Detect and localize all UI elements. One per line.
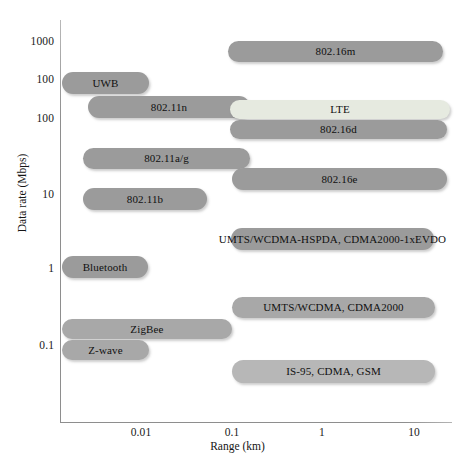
- technology-pill-label: 802.16e: [321, 174, 357, 185]
- technology-pill: 802.16d: [230, 120, 447, 139]
- technology-pill-label: 802.16m: [316, 46, 356, 57]
- wireless-technology-range-vs-datarate-chart: 10001001001010.1 0.010.1110 802.16mUWB80…: [0, 0, 475, 473]
- technology-pill: UWB: [62, 72, 149, 94]
- technology-pill-label: 802.11a/g: [144, 153, 189, 164]
- technology-pill: 802.11a/g: [83, 148, 250, 169]
- technology-pill: Z-wave: [62, 340, 149, 360]
- technology-pill-label: UMTS/WCDMA, CDMA2000: [263, 302, 404, 313]
- x-axis-tick-label: 0.01: [131, 426, 152, 438]
- technology-pill: ZigBee: [62, 319, 232, 339]
- x-axis-line: [60, 422, 452, 424]
- x-axis-title: Range (km): [0, 440, 475, 452]
- technology-pill: UMTS/WCDMA, CDMA2000: [232, 297, 435, 318]
- technology-pill-label: 802.11b: [127, 194, 163, 205]
- x-axis-tick-label: 0.1: [225, 426, 240, 438]
- technology-pill-label: Bluetooth: [83, 262, 128, 273]
- technology-pill: 802.11n: [88, 96, 250, 118]
- technology-pill: LTE: [230, 100, 450, 119]
- technology-pill-label: UMTS/WCDMA-HSPDA, CDMA2000-1xEVDO: [219, 234, 446, 245]
- technology-pill-label: 802.11n: [151, 102, 187, 113]
- technology-pill-label: UWB: [92, 78, 118, 89]
- technology-pill-label: ZigBee: [130, 324, 163, 335]
- y-axis-tick-label: 1000: [0, 35, 54, 47]
- x-axis-tick-label: 1: [319, 426, 325, 438]
- y-axis-tick-label: 0.1: [0, 339, 54, 351]
- technology-pill-label: IS-95, CDMA, GSM: [286, 366, 381, 377]
- technology-pill: UMTS/WCDMA-HSPDA, CDMA2000-1xEVDO: [231, 228, 434, 250]
- technology-pill: Bluetooth: [62, 256, 148, 278]
- y-axis-tick-label: 100: [0, 73, 54, 85]
- technology-pill-label: LTE: [330, 104, 350, 115]
- technology-pill: 802.16m: [228, 41, 443, 62]
- technology-pill: 802.16e: [232, 168, 447, 190]
- x-axis-tick-label: 10: [408, 426, 420, 438]
- technology-pill-label: 802.16d: [320, 124, 357, 135]
- technology-pill-label: Z-wave: [88, 345, 123, 356]
- technology-pill: IS-95, CDMA, GSM: [232, 360, 435, 383]
- technology-pill: 802.11b: [83, 188, 207, 210]
- y-axis-title: Data rate (Mbps): [16, 113, 28, 273]
